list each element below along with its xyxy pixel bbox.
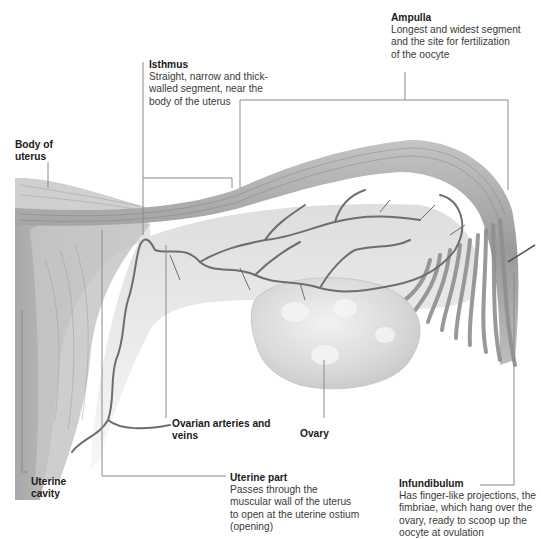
ovary-title: Ovary [300, 428, 360, 440]
uterine-part-desc: Passes through the muscular wall of the … [230, 484, 360, 533]
ampulla-title: Ampulla [391, 12, 521, 24]
label-isthmus: Isthmus Straight, narrow and thick-walle… [149, 59, 269, 108]
ovarian-vessels-title: Ovarian arteries and veins [172, 418, 282, 442]
infundibulum-desc: Has finger-like projections, the fimbria… [399, 490, 539, 539]
label-uterine-cavity: Uterine cavity [31, 476, 81, 500]
infundibulum-title: Infundibulum [399, 478, 539, 490]
body-of-uterus-title: Body of uterus [15, 139, 67, 163]
label-ovarian-vessels: Ovarian arteries and veins [172, 418, 282, 442]
label-ampulla: Ampulla Longest and widest segment and t… [391, 12, 521, 61]
uterine-part-title: Uterine part [230, 472, 360, 484]
label-uterine-part: Uterine part Passes through the muscular… [230, 472, 360, 533]
ampulla-desc: Longest and widest segment and the site … [391, 24, 521, 61]
label-body-of-uterus: Body of uterus [15, 139, 67, 163]
label-infundibulum: Infundibulum Has finger-like projections… [399, 478, 539, 539]
isthmus-desc: Straight, narrow and thick-walled segmen… [149, 71, 269, 108]
uterine-cavity-title: Uterine cavity [31, 476, 81, 500]
label-ovary: Ovary [300, 428, 360, 440]
isthmus-title: Isthmus [149, 59, 269, 71]
